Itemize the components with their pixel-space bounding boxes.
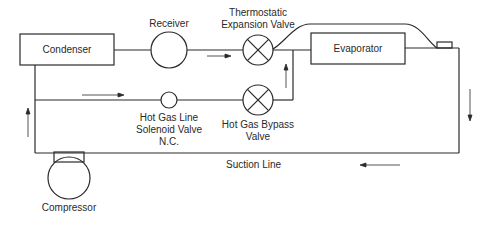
solenoid-label-line2: Solenoid Valve	[119, 124, 219, 136]
solenoid-label-line3: N.C.	[119, 136, 219, 148]
arrow-right-icon	[82, 93, 124, 97]
tev-label-line2: Expansion Valve	[208, 19, 308, 31]
tev-label-line1: Thermostatic	[218, 7, 298, 19]
arrow-up-icon	[26, 108, 30, 137]
sensing-bulb-icon	[437, 42, 452, 48]
solenoid-label-line1: Hot Gas Line	[119, 112, 219, 124]
receiver-icon	[151, 32, 187, 68]
evaporator-label: Evaporator	[311, 43, 405, 55]
receiver-label: Receiver	[129, 18, 209, 30]
expansion-valve-icon	[243, 35, 273, 65]
bypass-label-line1: Hot Gas Bypass	[208, 119, 308, 131]
solenoid-valve-icon	[161, 92, 177, 108]
refrigeration-schematic	[0, 0, 492, 225]
bypass-label-line2: Valve	[208, 131, 308, 143]
compressor-icon	[48, 157, 90, 199]
compressor-label: Compressor	[29, 202, 109, 214]
arrow-right-icon	[207, 54, 231, 58]
suction-line-label: Suction Line	[226, 159, 306, 171]
arrow-down-icon	[468, 89, 472, 121]
condenser-label: Condenser	[20, 44, 114, 56]
arrow-up-icon	[284, 64, 288, 88]
bypass-valve-icon	[243, 85, 273, 115]
